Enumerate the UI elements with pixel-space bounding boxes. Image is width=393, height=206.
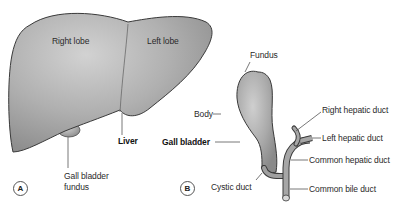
leader-right-hepatic-duct <box>296 112 321 131</box>
label-right-hepatic-duct: Right hepatic duct <box>322 105 388 115</box>
label-left-hepatic-duct: Left hepatic duct <box>322 133 383 143</box>
panel-marker-a: A <box>13 181 28 196</box>
label-common-bile-duct: Common bile duct <box>309 184 376 194</box>
label-cystic-duct: Cystic duct <box>211 182 251 192</box>
label-common-hepatic-duct: Common hepatic duct <box>309 155 390 165</box>
liver-shape <box>9 13 212 152</box>
label-right-lobe: Right lobe <box>52 36 89 46</box>
bile-duct-end <box>283 195 290 201</box>
leader-fundus <box>245 62 250 72</box>
leader-cystic-duct <box>256 173 262 180</box>
panel-marker-b: B <box>180 181 195 196</box>
label-liver: Liver <box>118 136 138 146</box>
label-left-lobe: Left lobe <box>147 36 179 46</box>
label-gall-bladder-fundus-line2: fundus <box>64 182 89 192</box>
anatomy-figure <box>0 0 393 206</box>
label-fundus: Fundus <box>250 50 278 60</box>
label-body: Body <box>194 109 213 119</box>
label-gall-bladder-fundus-line1: Gall bladder <box>64 171 109 181</box>
label-gall-bladder: Gall bladder <box>162 137 210 147</box>
liver-illustration <box>9 13 212 152</box>
gall-bladder-shape <box>237 71 277 173</box>
